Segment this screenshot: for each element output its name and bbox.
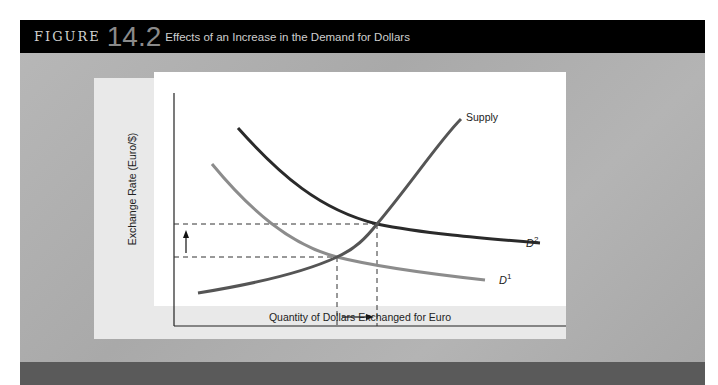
demand-curve-d1	[212, 164, 485, 280]
d1-label: D1	[499, 272, 512, 286]
demand-curve-d2	[238, 128, 540, 243]
x-axis-label: Quantity of Dollars Exchanged for Euro	[154, 311, 566, 323]
d2-label: D2	[526, 235, 539, 249]
rate-up-arrow	[183, 230, 189, 253]
supply-label: Supply	[466, 111, 499, 123]
chart-svg: Supply D2 D1	[0, 0, 718, 385]
y-axis-label: Exchange Rate (Euro/$)	[126, 72, 140, 306]
